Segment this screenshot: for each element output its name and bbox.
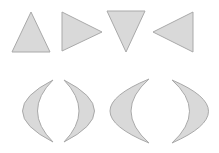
crescent-row <box>23 79 209 143</box>
triangle-left-icon <box>153 12 193 52</box>
crescent-left-icon <box>23 80 54 142</box>
triangle-row <box>12 11 193 52</box>
shapes-canvas <box>0 0 219 153</box>
triangle-up-icon <box>12 12 50 52</box>
triangle-right-icon <box>62 12 102 51</box>
crescent-right-icon <box>64 80 95 142</box>
crescent-right-icon <box>172 80 209 143</box>
crescent-left-icon <box>110 79 149 143</box>
triangle-down-icon <box>107 11 145 52</box>
